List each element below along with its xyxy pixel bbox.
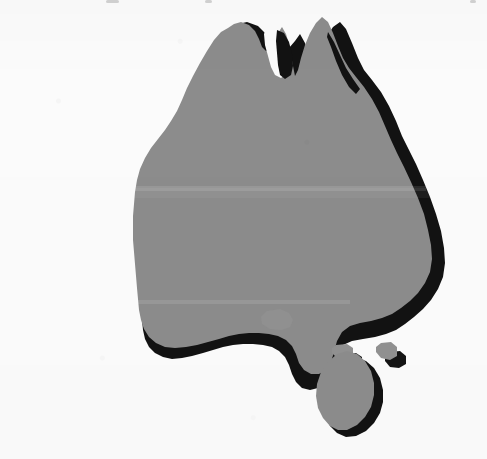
australia-map-graphic	[0, 0, 487, 459]
scan-speck	[106, 0, 119, 3]
scan-speck	[205, 0, 212, 3]
map-land-layer	[133, 17, 432, 430]
bass-strait-island-east	[376, 342, 397, 360]
map-figure	[0, 0, 487, 459]
scan-speck	[470, 0, 476, 3]
